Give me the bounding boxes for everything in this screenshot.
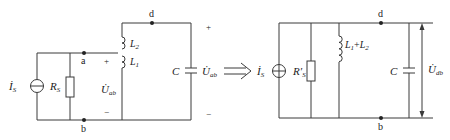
inductor-l1-label: L1 [129,56,139,69]
left-circuit: İS RS L2 L1 C a b d + U̇ab − + U̇ab − [8,8,217,134]
source-label: İS [8,80,17,94]
node-d [150,21,154,25]
uab-plus: + [104,56,109,66]
inductor-l2-label: L2 [129,38,140,51]
ucap-label: U̇ab [202,65,217,79]
uab-label: U̇ab [101,83,116,97]
resistor-icon [307,61,315,81]
capacitor-label: C [390,65,398,77]
capacitor-icon [402,68,416,73]
resistor-label: R′S [292,65,306,79]
node-b-label: b [81,123,86,134]
circuit-diagram: İS RS L2 L1 C a b d + U̇ab − + U̇ab − [0,0,450,140]
node-a-label: a [81,55,86,66]
voltage-arrow-icon [420,23,425,118]
capacitor-icon [184,68,198,73]
wire-loop [37,23,191,120]
uab-minus: − [104,107,109,117]
node-b-label: b [378,121,383,132]
capacitor-label: C [172,65,180,77]
node-b [379,116,383,120]
inductor-icon [335,36,343,62]
resistor-label: RS [49,80,61,94]
ucap-minus: − [206,109,211,119]
source-label: İS [256,65,265,79]
ucap-plus: + [206,22,211,32]
inductor-icon [118,37,126,68]
current-source-icon [30,79,44,93]
node-d-label: d [149,8,154,19]
right-circuit: İS R′S L1+L2 C U̇db d b [256,8,443,132]
node-d-label: d [378,8,383,19]
udb-label: U̇db [428,63,443,77]
equivalence-arrow-icon [224,63,251,79]
node-b [82,118,86,122]
inductor-label: L1+L2 [344,39,369,52]
node-d [379,21,383,25]
resistor-icon [66,77,74,97]
